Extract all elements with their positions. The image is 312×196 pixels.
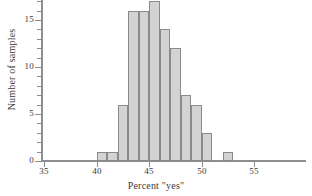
y-tick-minor (37, 29, 41, 30)
y-tick-minor (37, 123, 41, 124)
histogram-bar (160, 29, 171, 161)
y-tick-minor (37, 133, 41, 134)
x-tick-label: 50 (190, 166, 214, 176)
histogram-bar (139, 11, 150, 161)
y-tick-major (35, 114, 41, 115)
y-axis-title: Number of samples (6, 5, 17, 135)
y-tick-minor (37, 76, 41, 77)
x-tick-label: 55 (242, 166, 266, 176)
histogram-bar (128, 11, 139, 161)
histogram-bar (223, 152, 234, 161)
y-tick-minor (37, 39, 41, 40)
histogram-bar (149, 1, 160, 161)
x-tick-label: 45 (137, 166, 161, 176)
y-tick-minor (37, 86, 41, 87)
histogram-figure: 051015 3540455055 Number of samples Perc… (0, 0, 312, 196)
y-tick-minor (37, 58, 41, 59)
y-tick-minor (37, 95, 41, 96)
histogram-bar (191, 105, 202, 161)
y-tick-label: 5 (20, 109, 34, 118)
y-tick-minor (37, 1, 41, 2)
y-tick-label: 0 (20, 156, 34, 165)
y-tick-label: 10 (20, 62, 34, 71)
y-tick-minor (37, 142, 41, 143)
x-axis-title: Percent "yes" (41, 180, 271, 191)
histogram-bar (170, 48, 181, 161)
histogram-bar (107, 152, 118, 161)
histogram-bar (181, 95, 192, 161)
x-tick-label: 35 (32, 166, 56, 176)
y-tick-minor (37, 105, 41, 106)
y-tick-major (35, 20, 41, 21)
y-tick-label-group: 051015 (16, 0, 34, 162)
histogram-bar (97, 152, 108, 161)
histogram-bar (118, 105, 129, 161)
y-tick-major (35, 67, 41, 68)
y-tick-minor (37, 48, 41, 49)
y-tick-major (35, 161, 41, 162)
y-axis-line (41, 0, 43, 162)
y-tick-minor (37, 11, 41, 12)
x-tick-label: 40 (85, 166, 109, 176)
y-tick-minor (37, 152, 41, 153)
y-tick-label: 15 (20, 15, 34, 24)
histogram-bar (202, 133, 213, 161)
